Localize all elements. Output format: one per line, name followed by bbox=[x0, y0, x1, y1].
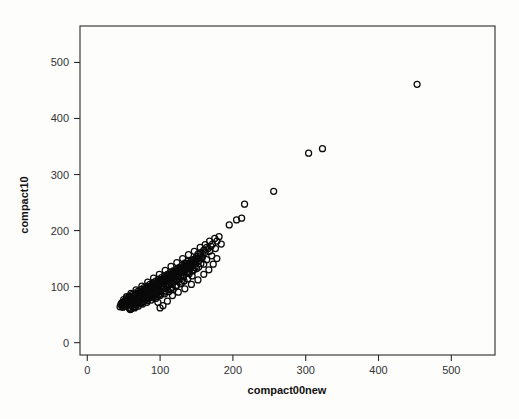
y-tick-label: 100 bbox=[51, 281, 69, 293]
y-tick-label: 400 bbox=[51, 112, 69, 124]
y-tick-label: 200 bbox=[51, 225, 69, 237]
x-tick-label: 400 bbox=[369, 364, 387, 376]
tick-marks-group bbox=[74, 62, 451, 361]
data-point-marker bbox=[226, 222, 232, 228]
data-point-marker bbox=[271, 188, 277, 194]
data-point-marker bbox=[210, 261, 216, 267]
scatter-plot-figure: 0100200300400500 0100200300400500 compac… bbox=[0, 0, 519, 419]
data-point-marker bbox=[195, 277, 201, 283]
data-point-marker bbox=[319, 146, 325, 152]
y-tick-label: 500 bbox=[51, 56, 69, 68]
data-point-marker bbox=[185, 252, 191, 258]
x-axis-tick-labels: 0100200300400500 bbox=[84, 364, 460, 376]
x-tick-label: 300 bbox=[297, 364, 315, 376]
y-axis-tick-labels: 0100200300400500 bbox=[51, 56, 69, 348]
y-tick-label: 0 bbox=[63, 337, 69, 349]
data-point-marker bbox=[206, 267, 212, 273]
data-point-marker bbox=[164, 298, 170, 304]
x-tick-label: 200 bbox=[224, 364, 242, 376]
x-tick-label: 500 bbox=[442, 364, 460, 376]
data-point-marker bbox=[306, 150, 312, 156]
data-point-marker bbox=[174, 260, 180, 266]
x-tick-label: 0 bbox=[84, 364, 90, 376]
y-tick-label: 300 bbox=[51, 169, 69, 181]
plot-canvas: 0100200300400500 0100200300400500 compac… bbox=[0, 0, 519, 419]
data-point-marker bbox=[188, 281, 194, 287]
data-point-marker bbox=[242, 201, 248, 207]
data-point-marker bbox=[201, 271, 207, 277]
data-point-group bbox=[117, 81, 420, 312]
data-point-marker bbox=[414, 81, 420, 87]
x-axis-title: compact00new bbox=[248, 384, 327, 396]
data-point-marker bbox=[182, 286, 188, 292]
x-tick-label: 100 bbox=[151, 364, 169, 376]
y-axis-title: compact10 bbox=[18, 176, 30, 233]
